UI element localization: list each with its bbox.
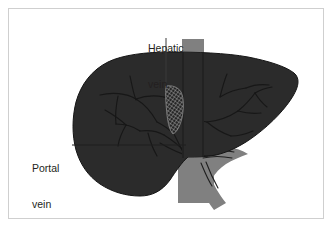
label-portal-vein-line1: Portal	[32, 162, 59, 174]
label-portal-vein-line2: vein	[32, 198, 59, 210]
label-portal-vein: Portal vein	[32, 138, 59, 229]
label-hepatic-vein-line1: Hepatic	[148, 42, 184, 54]
inferior-vena-cava-intrahepatic	[182, 52, 204, 158]
label-hepatic-vein-line2: vein	[148, 78, 184, 90]
label-hepatic-vein: Hepatic vein	[148, 18, 184, 114]
liver-anatomy-figure: Hepatic vein Portal vein	[0, 0, 334, 229]
